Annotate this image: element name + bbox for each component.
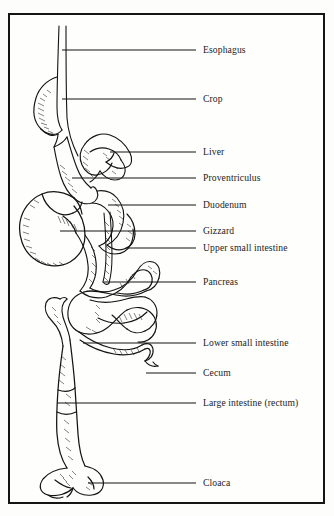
label-cecum: Cecum (203, 368, 231, 378)
label-large-intestine: Large intestine (rectum) (203, 398, 298, 408)
figure-border-frame (8, 13, 325, 504)
label-proventriculus: Proventriculus (203, 173, 261, 183)
label-esophagus: Esophagus (203, 45, 246, 55)
label-cloaca: Cloaca (203, 478, 230, 488)
label-gizzard: Gizzard (203, 226, 234, 236)
label-crop: Crop (203, 94, 223, 104)
label-liver: Liver (203, 147, 224, 157)
label-lower-small-intestine: Lower small intestine (203, 338, 289, 348)
label-pancreas: Pancreas (203, 277, 238, 287)
label-upper-small-intestine: Upper small intestine (203, 243, 288, 253)
figure-root: EsophagusCropLiverProventriculusDuodenum… (0, 0, 334, 516)
label-duodenum: Duodenum (203, 200, 247, 210)
